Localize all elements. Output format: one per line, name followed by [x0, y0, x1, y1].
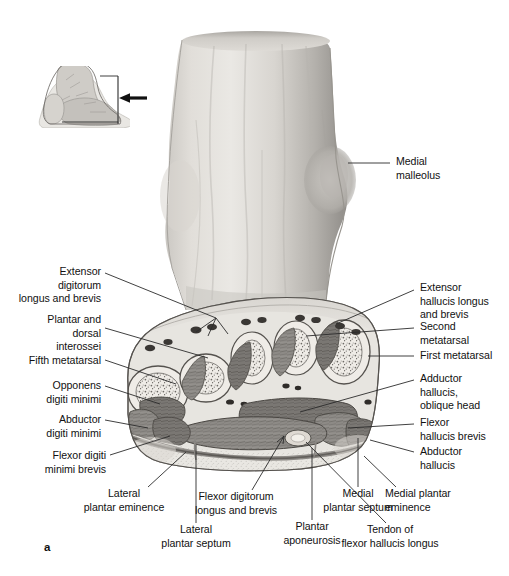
label-plantar-and-dorsal-interossei: Plantar and dorsal interossei [0, 313, 101, 354]
leg-and-ankle [160, 31, 356, 310]
label-abductor-digiti-minimi: Abductor digiti minimi [0, 413, 101, 440]
label-tendon-of-flexor-hallucis-longus: Tendon of flexor hallucis longus [320, 523, 460, 550]
label-lateral-plantar-eminence: Lateral plantar eminence [76, 487, 172, 514]
label-extensor-digitorum-longus-and-brevis: Extensor digitorum longus and brevis [0, 265, 101, 306]
label-second-metatarsal: Second metatarsal [420, 320, 509, 347]
label-abductor-hallucis: Abductor hallucis [420, 445, 509, 472]
label-first-metatarsal: First metatarsal [420, 349, 509, 363]
label-flexor-digitorum-longus-and-brevis: Flexor digitorum longus and brevis [176, 490, 296, 517]
label-flexor-hallucis-brevis: Flexor hallucis brevis [420, 416, 509, 443]
label-adductor-hallucis-oblique-head: Adductor hallucis, oblique head [420, 372, 509, 413]
label-medial-plantar-septum: Medial plantar septum [300, 487, 416, 514]
label-fifth-metatarsal: Fifth metatarsal [0, 354, 101, 368]
panel-label-a: a [44, 541, 50, 553]
label-medial-malleolus: Medial malleolus [396, 155, 506, 182]
label-lateral-plantar-septum: Lateral plantar septum [134, 523, 258, 550]
label-flexor-digiti-minimi-brevis: Flexor digiti minimi brevis [0, 449, 106, 476]
label-extensor-hallucis-longus-and-brevis: Extensor hallucis longus and brevis [420, 281, 509, 322]
label-opponens-digiti-minimi: Opponens digiti minimi [0, 379, 101, 406]
